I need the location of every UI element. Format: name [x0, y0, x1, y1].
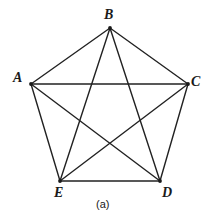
vertex-label-d: D [162, 186, 172, 200]
graph-vertex-c [186, 82, 190, 86]
figure-container: A B C D E (a) [0, 0, 214, 222]
graph-edge-bd [110, 28, 160, 181]
vertex-label-a: A [13, 71, 22, 85]
graph-edge-be [60, 28, 110, 181]
graph-vertex-e [58, 179, 62, 183]
graph-vertex-d [158, 179, 162, 183]
graph-edge-ad [31, 84, 160, 181]
graph-edge-ea [31, 84, 60, 181]
graph-edge-cd [160, 84, 188, 181]
graph-edge-ce [60, 84, 188, 181]
vertex-label-c: C [191, 75, 200, 89]
graph-vertex-b [108, 26, 112, 30]
graph-drawing [0, 0, 214, 222]
edge-layer [31, 28, 188, 181]
graph-edge-bc [110, 28, 188, 84]
figure-caption: (a) [96, 199, 109, 210]
vertex-label-b: B [104, 8, 113, 22]
vertex-label-e: E [54, 186, 63, 200]
graph-vertex-a [29, 82, 33, 86]
graph-edge-ab [31, 28, 110, 84]
